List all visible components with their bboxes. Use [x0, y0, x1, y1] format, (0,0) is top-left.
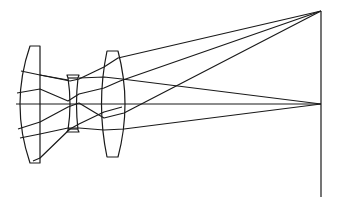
- ray-diagram: [0, 0, 340, 199]
- ray-c: [18, 11, 321, 129]
- rays: [16, 11, 321, 161]
- ray-a: [21, 11, 321, 81]
- ray-g: [40, 75, 68, 80]
- ray-b: [17, 11, 321, 101]
- ray-f: [33, 107, 122, 161]
- ray-d: [79, 77, 321, 104]
